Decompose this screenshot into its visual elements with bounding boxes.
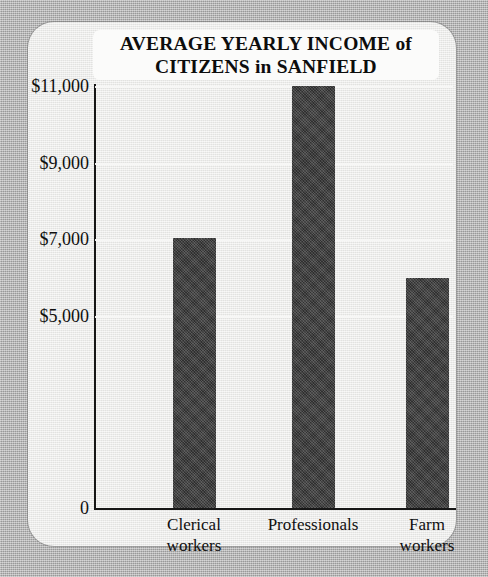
chart-title-banner: AVERAGE YEARLY INCOME of CITIZENS in SAN… (93, 30, 439, 80)
x-tick-label: Farm workers (400, 514, 455, 556)
y-tick-label: $7,000 (40, 229, 90, 250)
x-tick-label: Professionals (268, 514, 359, 535)
y-tick-label: 0 (80, 498, 89, 519)
y-axis-labels: 0$5,000$7,000$9,000$11,000 (0, 86, 89, 516)
x-axis-line (94, 508, 456, 510)
gridline (95, 163, 453, 165)
plot-area (95, 86, 455, 508)
gridline (95, 316, 453, 318)
x-tick-label: Clerical workers (167, 514, 222, 556)
page-background: AVERAGE YEARLY INCOME of CITIZENS in SAN… (0, 0, 488, 577)
gridline (95, 86, 453, 88)
y-tick-label: $5,000 (40, 306, 90, 327)
bar-1 (173, 238, 216, 508)
y-tick-label: $9,000 (40, 152, 90, 173)
chart-title: AVERAGE YEARLY INCOME of CITIZENS in SAN… (114, 32, 418, 78)
y-tick-label: $11,000 (31, 76, 89, 97)
bar-2 (292, 86, 335, 508)
gridline (95, 239, 453, 241)
x-axis-labels: Clerical workersProfessionalsFarm worker… (95, 514, 455, 572)
bar-3 (406, 278, 449, 508)
